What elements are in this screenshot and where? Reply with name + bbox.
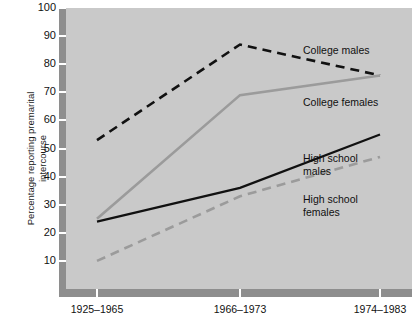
- y-axis-tick-label: 50: [16, 143, 56, 154]
- y-axis-tick-mark: [59, 63, 66, 65]
- y-axis-tick-label: 70: [16, 86, 56, 97]
- x-axis: [59, 289, 412, 297]
- chart-container: Percentage reporting premarital intercou…: [0, 0, 418, 324]
- x-axis-tick-label: 1974–1983: [330, 303, 418, 315]
- series-line-college-males: [97, 45, 380, 141]
- y-axis-tick-mark: [59, 176, 66, 178]
- y-axis-tick-mark: [59, 7, 66, 9]
- y-axis: [59, 8, 66, 289]
- series-label-high-school-males: High school males: [303, 152, 358, 177]
- series-label-college-females: College females: [303, 96, 378, 109]
- y-axis-tick-label: 40: [16, 171, 56, 182]
- y-axis-tick-mark: [59, 232, 66, 234]
- y-axis-tick-label: 80: [16, 58, 56, 69]
- x-axis-tick-mark: [379, 289, 381, 297]
- y-axis-tick-mark: [59, 35, 66, 37]
- series-label-high-school-females: High school females: [303, 193, 358, 218]
- y-axis-tick-label: 100: [16, 2, 56, 13]
- y-axis-tick-mark: [59, 260, 66, 262]
- y-axis-tick-label: 90: [16, 30, 56, 41]
- y-axis-tick-mark: [59, 148, 66, 150]
- series-label-college-males: College males: [303, 44, 370, 57]
- y-axis-tick-mark: [59, 204, 66, 206]
- y-axis-tick-mark: [59, 119, 66, 121]
- y-axis-tick-label: 10: [16, 255, 56, 266]
- x-axis-tick-label: 1966–1973: [190, 303, 290, 315]
- y-axis-tick-label: 20: [16, 227, 56, 238]
- x-axis-tick-mark: [96, 289, 98, 297]
- y-axis-tick-label-group: 100908070605040302010: [16, 0, 56, 324]
- x-axis-tick-mark: [239, 289, 241, 297]
- y-axis-tick-label: 30: [16, 199, 56, 210]
- x-axis-tick-label: 1925–1965: [47, 303, 147, 315]
- y-axis-tick-label: 60: [16, 114, 56, 125]
- y-axis-tick-mark: [59, 91, 66, 93]
